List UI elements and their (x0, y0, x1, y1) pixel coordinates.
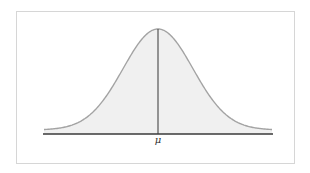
bell-curve-figure (0, 0, 310, 173)
mean-label: μ (152, 134, 164, 146)
